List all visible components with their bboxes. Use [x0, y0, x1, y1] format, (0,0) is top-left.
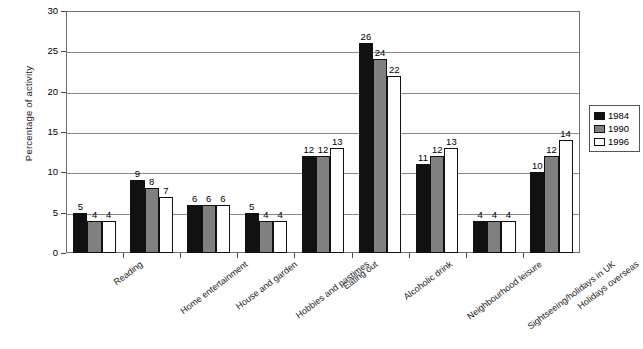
bar-value-label: 13 — [439, 136, 463, 147]
y-tick-label: 0 — [18, 247, 58, 258]
bar — [473, 221, 487, 253]
x-axis-category-label: Reading — [111, 259, 144, 287]
gray-swatch-icon — [594, 125, 605, 133]
legend-item: 1996 — [594, 135, 636, 148]
bar — [501, 221, 515, 253]
black-swatch-icon — [594, 112, 605, 120]
bar — [444, 148, 458, 253]
legend-item: 1984 — [594, 109, 636, 122]
bar-chart: Percentage of activity 051015202530 5449… — [0, 0, 643, 349]
bar — [430, 156, 444, 253]
bar-group: 666 — [180, 11, 237, 253]
bar — [387, 76, 401, 253]
legend: 198419901996 — [589, 105, 640, 152]
y-tick-label: 20 — [18, 86, 58, 97]
bar-group: 101214 — [523, 11, 580, 253]
bar-value-label: 13 — [325, 136, 349, 147]
y-tick-label: 10 — [18, 166, 58, 177]
bars-layer: 544987666544121213262422111213444101214 — [66, 11, 580, 253]
bar-group: 444 — [466, 11, 523, 253]
bar — [145, 188, 159, 253]
y-tick-label: 25 — [18, 45, 58, 56]
x-tick-mark — [294, 253, 295, 258]
bar-value-label: 26 — [354, 31, 378, 42]
bar-value-label: 22 — [382, 64, 406, 75]
bar — [130, 180, 144, 253]
bar-value-label: 14 — [554, 128, 578, 139]
bar-group: 121213 — [294, 11, 351, 253]
x-axis-category-label: Neighbourhood leisure — [465, 259, 543, 321]
white-swatch-icon — [594, 138, 605, 146]
legend-item: 1990 — [594, 122, 636, 135]
legend-label: 1996 — [608, 136, 629, 147]
bar — [487, 221, 501, 253]
bar-group: 544 — [66, 11, 123, 253]
bar — [259, 221, 273, 253]
y-tick-label: 5 — [18, 207, 58, 218]
y-tick-mark — [61, 253, 66, 254]
legend-label: 1984 — [608, 110, 629, 121]
bar-value-label: 4 — [268, 209, 292, 220]
bar-value-label: 4 — [97, 209, 121, 220]
bar — [159, 197, 173, 253]
x-tick-mark — [180, 253, 181, 258]
bar — [316, 156, 330, 253]
bar — [102, 221, 116, 253]
bar — [373, 59, 387, 253]
bar — [530, 172, 544, 253]
x-tick-mark — [352, 253, 353, 258]
bar-value-label: 4 — [496, 209, 520, 220]
bar — [416, 164, 430, 253]
bar-group: 544 — [237, 11, 294, 253]
x-tick-mark — [523, 253, 524, 258]
x-axis-category-label: Alcoholic drink — [402, 259, 454, 302]
bar-group: 111213 — [409, 11, 466, 253]
bar — [216, 205, 230, 253]
bar — [202, 205, 216, 253]
x-tick-mark — [466, 253, 467, 258]
x-tick-mark — [409, 253, 410, 258]
bar-value-label: 7 — [154, 185, 178, 196]
y-tick-label: 30 — [18, 5, 58, 16]
bar — [302, 156, 316, 253]
bar — [544, 156, 558, 253]
x-tick-mark — [237, 253, 238, 258]
bar — [559, 140, 573, 253]
bar — [187, 205, 201, 253]
bar-value-label: 24 — [368, 47, 392, 58]
bar — [359, 43, 373, 253]
x-tick-mark — [123, 253, 124, 258]
bar — [273, 221, 287, 253]
bar — [87, 221, 101, 253]
y-tick-label: 15 — [18, 126, 58, 137]
bar-group: 262422 — [352, 11, 409, 253]
bar-group: 987 — [123, 11, 180, 253]
bar-value-label: 6 — [211, 193, 235, 204]
bar — [330, 148, 344, 253]
legend-label: 1990 — [608, 123, 629, 134]
